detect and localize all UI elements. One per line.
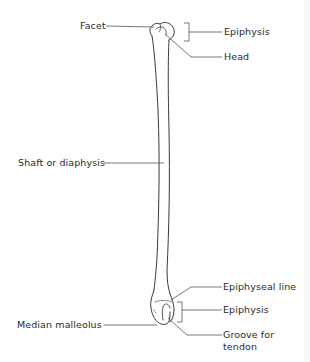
diagram-canvas: Facet Epiphysis Head Shaft or diaphysis … [0,0,310,362]
epiphysis-top-bracket [184,23,189,41]
bone-head-outline [150,23,174,41]
distal-end-outline [151,290,170,324]
label-head: Head [224,51,249,62]
label-groove-line1: Groove for [223,329,274,340]
head-leader [165,34,222,57]
epiphyseal-line-leader [171,287,222,300]
facet-detail [156,27,166,35]
groove-detail [162,304,170,320]
shaft-right-edge [167,40,170,294]
label-epiphysis-bottom: Epiphysis [223,304,269,315]
label-epiphysis-top: Epiphysis [224,26,270,37]
label-shaft: Shaft or diaphysis [18,157,105,168]
epiphysis-bottom-bracket [177,302,182,322]
label-epiphyseal-line: Epiphyseal line [223,281,296,292]
label-groove-line2: tendon [223,341,257,352]
facet-leader [106,26,154,27]
label-median-malleolus: Median malleolus [17,319,102,330]
label-facet: Facet [80,20,106,31]
groove-leader [168,318,222,335]
epiphyseal-line-mark [155,301,172,303]
